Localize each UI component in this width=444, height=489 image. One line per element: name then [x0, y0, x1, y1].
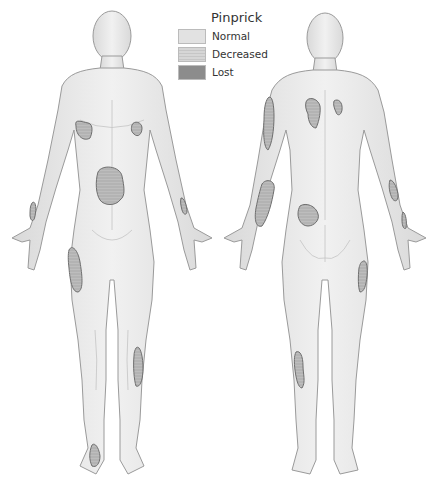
swatch-decreased	[178, 47, 206, 62]
legend-item-normal: Normal	[178, 29, 288, 47]
legend-item-decreased: Decreased	[178, 47, 288, 65]
patch-abdomen	[96, 167, 124, 204]
patch-right-wrist-back	[402, 212, 406, 229]
patch-right-forearm	[30, 202, 36, 220]
patch-left-shin	[134, 347, 143, 386]
swatch-normal	[178, 29, 206, 44]
legend-label-decreased: Decreased	[212, 47, 268, 62]
legend-label-normal: Normal	[212, 29, 250, 44]
legend-item-lost: Lost	[178, 65, 288, 83]
swatch-lost	[178, 65, 206, 80]
patch-left-chest	[131, 122, 142, 135]
legend-title: Pinprick	[211, 10, 262, 25]
legend-label-lost: Lost	[212, 65, 234, 80]
